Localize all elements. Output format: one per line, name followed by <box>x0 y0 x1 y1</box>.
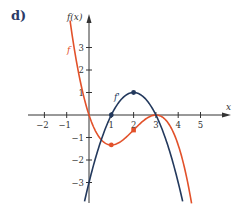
y-axis-label: f(x) <box>66 12 83 22</box>
curve-f-prime <box>85 93 183 202</box>
point-f-prime <box>109 113 114 118</box>
series-label-f-prime: f' <box>113 92 120 102</box>
y-tick-label: −1 <box>71 133 84 143</box>
y-tick-label: 3 <box>79 43 84 53</box>
x-tick-label: 4 <box>175 120 180 130</box>
x-tick-label: −2 <box>36 120 49 130</box>
point-f-prime <box>131 90 136 95</box>
x-tick-label: 5 <box>198 120 203 130</box>
point-f-inflection <box>131 128 136 133</box>
series-label-f: f <box>66 45 72 55</box>
x-tick-label: −1 <box>58 120 71 130</box>
y-tick-label: −3 <box>71 178 84 188</box>
y-axis-arrow-icon <box>87 14 92 23</box>
x-tick-label: 3 <box>153 120 158 130</box>
x-axis-label: x <box>226 102 231 112</box>
x-axis-arrow-icon <box>222 113 231 118</box>
function-graph: −2−112345−3−2−1123xf(x)ff' <box>0 0 243 214</box>
x-tick-label: 1 <box>109 120 114 130</box>
point-f-min <box>109 143 114 148</box>
y-tick-label: −2 <box>71 155 84 165</box>
